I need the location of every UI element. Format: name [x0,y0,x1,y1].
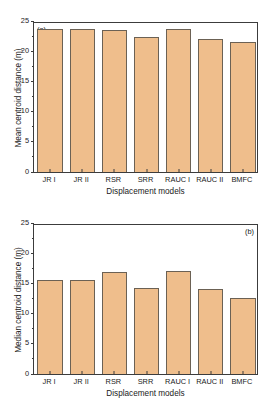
y-tick-mark [31,283,34,284]
x-tick-mark [210,371,211,374]
x-tick-label-srr: SRR [138,377,154,386]
y-minor-tick-mark [32,298,34,299]
y-tick-label: 15 [21,76,29,85]
y-tick-mark [31,111,34,112]
x-tick-mark [178,371,179,374]
bar-srr [134,288,159,374]
y-tick-mark [31,51,34,52]
x-tick-mark [210,169,211,172]
panel-a-y-axis-title: Mean centroid distance (m) [12,13,25,183]
panel-b: Median centroid distance (m) (b) 0510152… [0,202,272,403]
panel-b-y-axis-title: Median centroid distance (m) [12,215,25,385]
x-tick-mark [82,371,83,374]
bar-bmfc [230,298,255,374]
panel-b-x-tick-labels: JR IJR IIRSRSRRRAUC IRAUC IIBMFC [33,377,258,389]
panel-b-bar-group [34,225,257,374]
x-tick-label-bmfc: BMFC [231,377,252,386]
y-tick-label: 15 [21,278,29,287]
panel-b-x-axis-title: Displacement models [33,389,258,398]
y-tick-mark [31,141,34,142]
x-tick-label-srr: SRR [138,175,154,184]
panel-a-x-axis-title: Displacement models [33,187,258,196]
x-tick-label-rauc-i: RAUC I [165,175,190,184]
bar-jr-i [37,29,62,172]
y-tick-label: 20 [21,248,29,257]
y-tick-label: 0 [25,369,29,378]
y-minor-tick-mark [32,36,34,37]
y-tick-label: 5 [25,136,29,145]
x-tick-mark [242,169,243,172]
x-tick-mark [114,371,115,374]
x-tick-mark [50,371,51,374]
bar-rauc-i [166,271,191,374]
y-tick-label: 10 [21,106,29,115]
x-tick-label-rauc-ii: RAUC II [196,175,223,184]
y-tick-label: 0 [25,167,29,176]
y-minor-tick-mark [32,66,34,67]
y-tick-mark [31,253,34,254]
y-tick-mark [31,343,34,344]
x-tick-label-rauc-ii: RAUC II [196,377,223,386]
x-tick-mark [114,169,115,172]
bar-jr-ii [70,29,95,172]
y-tick-label: 25 [21,16,29,25]
y-tick-mark [31,172,34,173]
y-minor-tick-mark [32,96,34,97]
y-tick-label: 25 [21,218,29,227]
y-minor-tick-mark [32,268,34,269]
bar-rauc-ii [198,39,223,172]
panel-a-plot-area: (a) 0510152025 [33,22,258,173]
bar-rsr [102,272,127,374]
panel-b-plot-area: (b) 0510152025 [33,224,258,375]
bar-srr [134,37,159,172]
x-tick-label-rsr: RSR [106,377,122,386]
y-tick-mark [31,313,34,314]
x-tick-mark [178,169,179,172]
y-tick-label: 5 [25,338,29,347]
x-tick-label-bmfc: BMFC [231,175,252,184]
x-tick-mark [146,169,147,172]
panel-a-bar-group [34,23,257,172]
x-tick-label-jr-i: JR I [42,377,55,386]
y-tick-mark [31,374,34,375]
x-tick-mark [82,169,83,172]
y-minor-tick-mark [32,126,34,127]
y-tick-mark [31,81,34,82]
bar-jr-ii [70,280,95,374]
bar-rauc-i [166,29,191,172]
bar-rsr [102,30,127,172]
x-tick-mark [242,371,243,374]
y-minor-tick-mark [32,328,34,329]
x-tick-mark [146,371,147,374]
y-tick-mark [31,223,34,224]
y-tick-mark [31,21,34,22]
bar-rauc-ii [198,289,223,374]
x-tick-label-rauc-i: RAUC I [165,377,190,386]
y-minor-tick-mark [32,238,34,239]
bar-bmfc [230,42,255,172]
x-tick-label-rsr: RSR [106,175,122,184]
x-tick-label-jr-ii: JR II [74,377,89,386]
x-tick-mark [50,169,51,172]
panel-a: Mean centroid distance (m) (a) 051015202… [0,0,272,201]
x-tick-label-jr-i: JR I [42,175,55,184]
figure-two-panel-bar-charts: Mean centroid distance (m) (a) 051015202… [0,0,272,403]
bar-jr-i [37,280,62,374]
x-tick-label-jr-ii: JR II [74,175,89,184]
y-minor-tick-mark [32,156,34,157]
y-tick-label: 20 [21,46,29,55]
y-tick-label: 10 [21,308,29,317]
y-minor-tick-mark [32,358,34,359]
panel-a-x-tick-labels: JR IJR IIRSRSRRRAUC IRAUC IIBMFC [33,175,258,187]
